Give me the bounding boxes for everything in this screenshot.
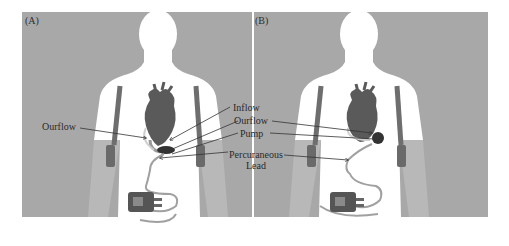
lvad-figure: (A) (B) Ourflow Inflow Ourflow Pump Perc… xyxy=(0,0,509,246)
panel-label-b: (B) xyxy=(255,15,268,26)
callout-outflow-left: Ourflow xyxy=(42,121,76,132)
callout-pump: Pump xyxy=(240,128,263,139)
callout-percutaneous-lead: Percuraneous Lead xyxy=(227,149,285,171)
panel-label-a: (A) xyxy=(25,15,39,26)
callout-percutaneous-line2: Lead xyxy=(246,160,266,171)
callout-outflow: Ourflow xyxy=(234,115,268,126)
callout-percutaneous-line1: Percuraneous xyxy=(229,149,283,160)
callout-inflow: Inflow xyxy=(233,102,260,113)
